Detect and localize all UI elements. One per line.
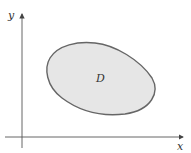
diagram-canvas: y x D <box>0 0 191 153</box>
y-axis-label: y <box>7 9 15 22</box>
x-axis-label: x <box>177 140 184 153</box>
region-label: D <box>95 72 105 85</box>
